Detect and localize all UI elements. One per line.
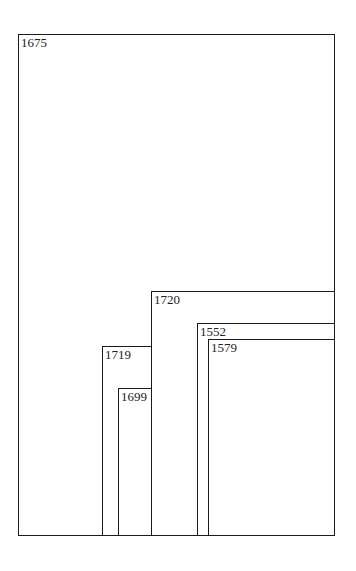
box-1579: 1579 bbox=[208, 339, 335, 536]
box-1699: 1699 bbox=[118, 388, 152, 536]
box-label-1579: 1579 bbox=[211, 341, 237, 355]
box-label-1719: 1719 bbox=[105, 348, 131, 362]
box-label-1675: 1675 bbox=[21, 36, 47, 50]
box-label-1552: 1552 bbox=[200, 325, 226, 339]
box-label-1699: 1699 bbox=[121, 390, 147, 404]
box-label-1720: 1720 bbox=[154, 293, 180, 307]
